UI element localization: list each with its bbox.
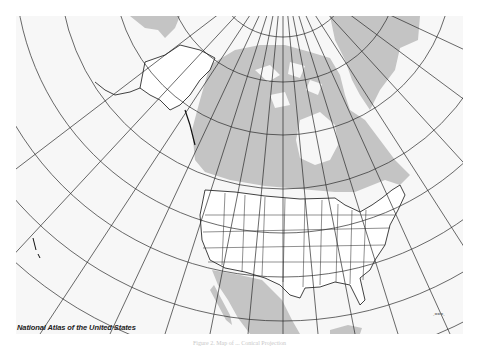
scale-bar-icon: .===.	[433, 311, 445, 317]
aleutian-islands	[95, 82, 140, 95]
siberia-shape	[130, 16, 180, 38]
map-credit: National Atlas of the United States	[17, 323, 136, 332]
map-frame	[16, 16, 463, 334]
figure-caption: Figure 2. Map of ... Conical Projection	[0, 340, 479, 346]
hawaii-shape	[33, 238, 40, 258]
cuba-shape	[330, 325, 362, 334]
map-canvas	[16, 16, 463, 334]
